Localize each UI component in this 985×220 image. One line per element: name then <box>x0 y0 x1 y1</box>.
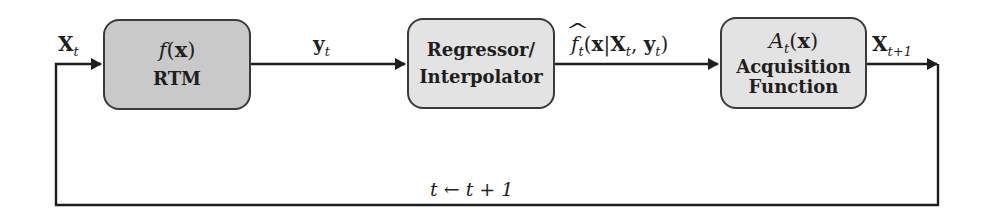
acq-fn-arg: x <box>797 28 810 53</box>
yt-base: y <box>313 32 325 56</box>
next-sample-label: Xt+1 <box>872 34 912 58</box>
regressor-label-line1: Regressor/ <box>427 39 535 62</box>
xnext-base: X <box>872 32 888 56</box>
regressor-block: Regressor/ Interpolator <box>407 18 555 109</box>
xnext-sub: t+1 <box>888 44 912 59</box>
acquisition-function: At(x) <box>769 29 818 57</box>
rtm-function: f(x) <box>159 38 196 62</box>
rtm-block: f(x) RTM <box>103 19 251 110</box>
xt-base: X <box>58 32 74 56</box>
acquisition-label-line1: Acquisition <box>736 57 851 77</box>
rtm-label: RTM <box>153 68 201 91</box>
fhat-arg-y: y <box>644 32 656 56</box>
acquisition-block: At(x) Acquisition Function <box>720 17 867 109</box>
feedback-label: t ← t + 1 <box>430 180 513 199</box>
yt-sub: t <box>325 44 330 59</box>
xt-sub: t <box>74 44 79 59</box>
input-label-xt: Xt <box>58 34 79 58</box>
regressor-label-line2: Interpolator <box>419 66 543 89</box>
fhat-arg-x: x <box>591 32 603 56</box>
surrogate-label: f ^ t(x|Xt, yt) <box>571 34 668 58</box>
fhat-arg-X: X <box>610 32 626 56</box>
acquisition-label-line2: Function <box>749 77 839 97</box>
fhat-comma: , <box>631 32 637 56</box>
fhat-hat: ^ <box>565 22 589 40</box>
output-label-yt: yt <box>313 34 330 58</box>
rtm-fn-arg: x <box>175 37 188 62</box>
acq-fn-symbol: A <box>769 29 784 53</box>
